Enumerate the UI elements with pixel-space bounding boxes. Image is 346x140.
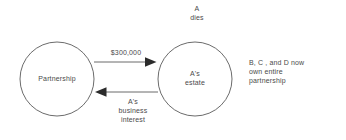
node-as-estate-label: A's estate	[155, 69, 235, 87]
edge-cash-payment-arrowhead	[145, 57, 157, 67]
annotation-ownership-outcome: B, C , and D now own entire partnership	[249, 58, 344, 85]
edge-cash-payment-label: $300,000	[93, 48, 159, 57]
edge-business-interest-arrowhead	[95, 87, 107, 97]
edge-business-interest-label: A's business interest	[100, 97, 166, 124]
diagram-canvas: A dies Partnership A's estate $300,000 A…	[0, 0, 346, 140]
annotation-a-dies: A dies	[157, 4, 237, 22]
node-partnership-label: Partnership	[17, 74, 97, 83]
